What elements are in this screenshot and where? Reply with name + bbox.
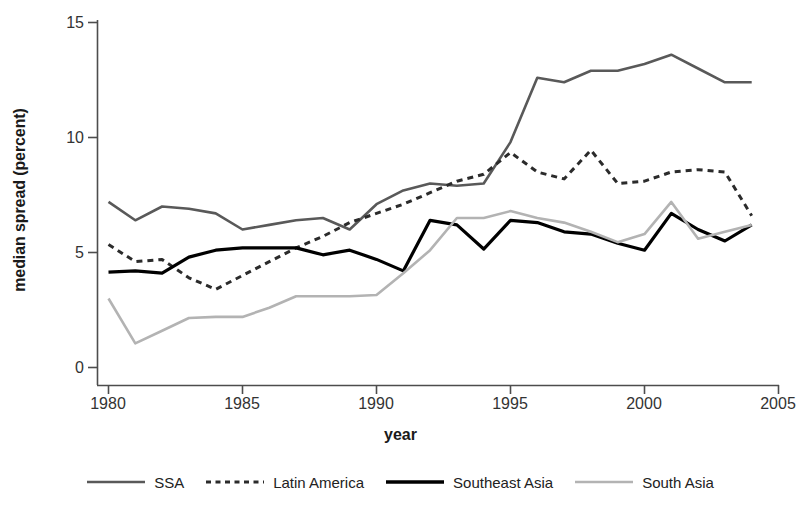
legend-swatch-southeast-asia — [386, 476, 444, 488]
legend-item-ssa[interactable]: SSA — [87, 474, 184, 491]
data-series-group — [109, 55, 752, 344]
legend-label-latin-america: Latin America — [273, 474, 364, 491]
legend-item-south-asia[interactable]: South Asia — [575, 474, 714, 491]
legend-label-southeast-asia: Southeast Asia — [453, 474, 553, 491]
plot-area — [0, 0, 801, 440]
chart-figure: median spread (percent) 15 10 5 0 1980 1… — [0, 0, 801, 509]
legend-label-ssa: SSA — [154, 474, 184, 491]
chart-legend: SSA Latin America Southeast Asia South A… — [0, 462, 801, 502]
legend-swatch-south-asia — [575, 476, 633, 488]
legend-item-latin-america[interactable]: Latin America — [206, 474, 364, 491]
legend-swatch-latin-america — [206, 476, 264, 488]
x-axis-title: year — [0, 426, 801, 444]
legend-item-southeast-asia[interactable]: Southeast Asia — [386, 474, 553, 491]
legend-label-south-asia: South Asia — [642, 474, 714, 491]
legend-swatch-ssa — [87, 476, 145, 488]
series-line-ssa — [109, 55, 752, 230]
